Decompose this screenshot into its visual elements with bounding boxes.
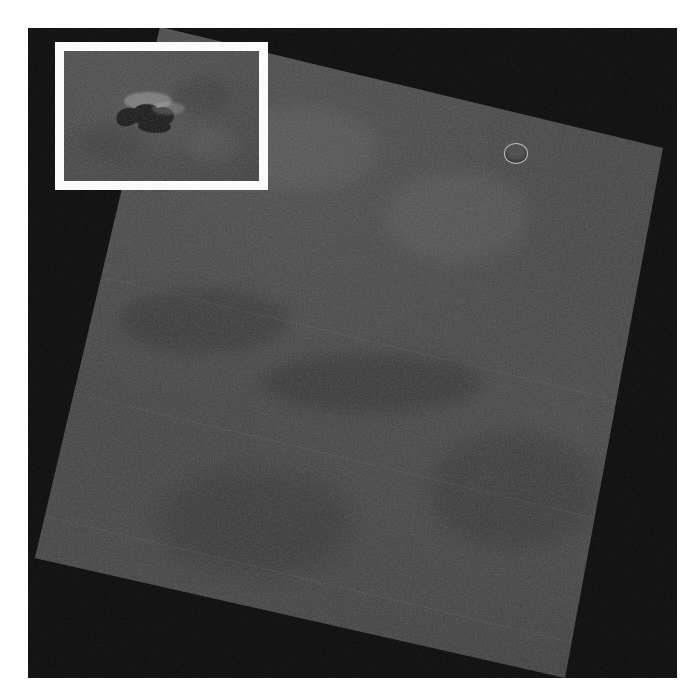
feature-highlight — [152, 102, 185, 115]
inset-noise-texture — [64, 51, 259, 181]
feature-lobe — [130, 102, 160, 127]
dark-surface-feature — [115, 94, 193, 138]
inset-callout-box[interactable] — [55, 42, 268, 190]
image-alt-text: Grayscale orbital image of a planetary s… — [0, 0, 1, 1]
feature-lobe — [150, 106, 175, 127]
feature-highlight — [124, 92, 172, 110]
feature-lobe — [138, 118, 172, 134]
inset-mottle — [80, 123, 146, 159]
inset-mottle — [185, 129, 240, 163]
inset-image — [64, 51, 259, 181]
page-root: Grayscale orbital image of a planetary s… — [0, 0, 699, 699]
inset-mottle — [171, 77, 230, 116]
feature-lobe — [114, 105, 142, 129]
image-frame — [28, 28, 677, 678]
